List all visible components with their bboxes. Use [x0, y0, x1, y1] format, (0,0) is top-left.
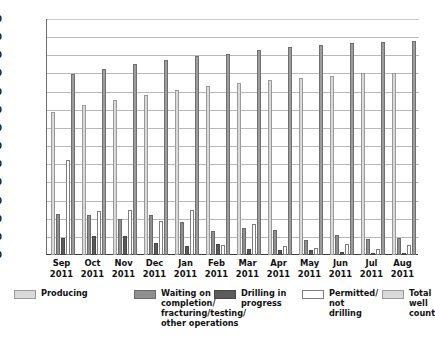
legend-swatch	[134, 290, 156, 299]
x-tick-label: Jan2011	[170, 258, 201, 279]
x-tick-label: Apr2011	[263, 258, 294, 279]
bar	[314, 248, 318, 255]
bar	[190, 210, 194, 255]
y-tick-label: 1,800	[0, 88, 2, 97]
bar	[206, 86, 210, 255]
y-tick-label: 2,000	[0, 69, 2, 78]
bar-group	[330, 19, 354, 255]
bar	[350, 43, 354, 255]
legend-label: Drilling in progress	[241, 288, 286, 308]
bar	[216, 244, 220, 255]
bar-group	[237, 19, 261, 255]
bar	[175, 90, 179, 255]
y-tick-label: 1,400	[0, 124, 2, 133]
bar	[159, 221, 163, 255]
x-tick-label: Jul2011	[356, 258, 387, 279]
y-tick-label: 600	[0, 197, 2, 206]
bar	[185, 246, 189, 255]
y-tick-label: 1,000	[0, 160, 2, 169]
bar	[252, 224, 256, 255]
bar	[330, 76, 334, 255]
bar	[82, 105, 86, 255]
bar	[335, 235, 339, 255]
bar	[237, 83, 241, 255]
bar-group	[392, 19, 416, 255]
bar-group	[144, 19, 168, 255]
bar	[102, 69, 106, 255]
bar-group	[361, 19, 385, 255]
bar	[226, 54, 230, 256]
y-tick-label: 800	[0, 178, 2, 187]
bar	[92, 236, 96, 255]
bar	[123, 236, 127, 255]
bar	[87, 215, 91, 255]
y-tick-label: 0	[0, 251, 2, 260]
bar	[51, 112, 55, 255]
bar	[97, 211, 101, 255]
y-tick-label: 2,600	[0, 15, 2, 24]
bar	[288, 47, 292, 255]
bar	[340, 252, 344, 255]
bar	[113, 100, 117, 255]
bar	[299, 78, 303, 255]
bar	[376, 249, 380, 255]
bar	[304, 240, 308, 255]
bar	[128, 210, 132, 255]
y-tick-label: 400	[0, 215, 2, 224]
bar-group	[175, 19, 199, 255]
legend-label: Producing	[41, 288, 88, 298]
bar	[257, 50, 261, 255]
bar	[319, 45, 323, 255]
bar	[381, 42, 385, 255]
bar	[221, 245, 225, 255]
bar	[154, 243, 158, 255]
bar	[66, 160, 70, 255]
bar	[56, 214, 60, 255]
bar	[283, 246, 287, 255]
bar-group	[299, 19, 323, 255]
bar	[71, 74, 75, 255]
chart-legend: ProducingWaiting on completion/ fracturi…	[14, 288, 414, 336]
y-tick-label: 200	[0, 233, 2, 242]
bar	[242, 228, 246, 255]
x-tick-label: Aug2011	[387, 258, 418, 279]
bar	[309, 250, 313, 255]
x-tick-label: Dec2011	[139, 258, 170, 279]
legend-swatch	[382, 290, 404, 299]
x-tick-label: Jun2011	[325, 258, 356, 279]
x-tick-label: Sep2011	[46, 258, 77, 279]
y-tick-label: 1,600	[0, 106, 2, 115]
bar	[144, 95, 148, 255]
bar	[361, 73, 365, 255]
bar-group	[113, 19, 137, 255]
bar	[366, 239, 370, 255]
bar	[278, 250, 282, 255]
bar	[180, 222, 184, 255]
bar	[211, 231, 215, 255]
bar	[412, 41, 416, 255]
x-tick-label: Mar2011	[232, 258, 263, 279]
bar	[164, 60, 168, 255]
bar-group	[268, 19, 292, 255]
bar	[397, 238, 401, 255]
legend-swatch	[302, 290, 324, 299]
x-tick-label: Feb2011	[201, 258, 232, 279]
y-tick-label: 2,400	[0, 33, 2, 42]
bar	[149, 215, 153, 255]
x-tick-label: May2011	[294, 258, 325, 279]
bar	[118, 219, 122, 255]
bar	[268, 80, 272, 255]
bar-group	[51, 19, 75, 255]
bar-group	[206, 19, 230, 255]
bar	[402, 253, 406, 255]
bar	[195, 56, 199, 255]
bar	[247, 249, 251, 255]
bar	[61, 238, 65, 255]
legend-swatch	[214, 290, 236, 299]
x-tick-label: Oct2011	[77, 258, 108, 279]
bar	[133, 64, 137, 255]
bar-group	[82, 19, 106, 255]
bar	[407, 245, 411, 255]
y-tick-label: 1,200	[0, 142, 2, 151]
